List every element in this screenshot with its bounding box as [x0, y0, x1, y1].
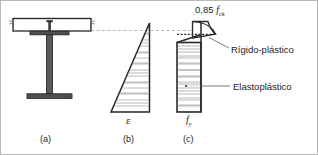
stress-transition-line: [177, 35, 201, 43]
steel-beam-bottom-flange: [27, 94, 72, 99]
elastoplastic-anchor-dot: [185, 85, 187, 87]
shear-stud-head: [46, 20, 52, 22]
shear-stud-shank: [48, 22, 51, 32]
panel-b-strain-diagram: [111, 23, 150, 112]
steel-beam-web: [47, 35, 53, 94]
figure-container: 0,85 fck Rígido-plástico Elastoplástico …: [0, 0, 318, 155]
panel-c-stress-diagram: [177, 22, 217, 113]
caption-a: (a): [40, 135, 51, 144]
rigid-plastic-leader-line: [209, 38, 229, 49]
caption-c: (c): [183, 135, 194, 144]
steel-beam-top-flange: [30, 31, 69, 35]
rigid-plastic-label: Rígido-plástico: [231, 45, 294, 55]
caption-b: (b): [123, 135, 134, 144]
elastoplastic-label: Elastoplástico: [233, 82, 292, 92]
figure-drawing: [1, 1, 318, 155]
strain-symbol-label: ε: [126, 115, 130, 126]
steel-yield-symbol-label: fy: [186, 115, 192, 128]
concrete-stress-coefficient: 0,85: [195, 4, 214, 15]
concrete-stress-symbol: fck: [216, 4, 225, 15]
concrete-stress-label: 0,85 fck: [195, 5, 225, 18]
